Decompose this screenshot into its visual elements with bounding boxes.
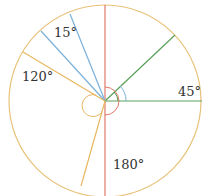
arc-45-outer <box>120 86 126 101</box>
label-15: 15° <box>54 25 77 40</box>
ray-orange-2 <box>81 101 105 186</box>
label-180: 180° <box>113 157 144 172</box>
label-45: 45° <box>178 84 201 99</box>
label-120: 120° <box>22 69 53 84</box>
arc-45 <box>114 92 118 101</box>
ray-blue-2 <box>41 31 105 101</box>
angle-diagram: 15° 120° 45° 180° <box>0 0 210 196</box>
